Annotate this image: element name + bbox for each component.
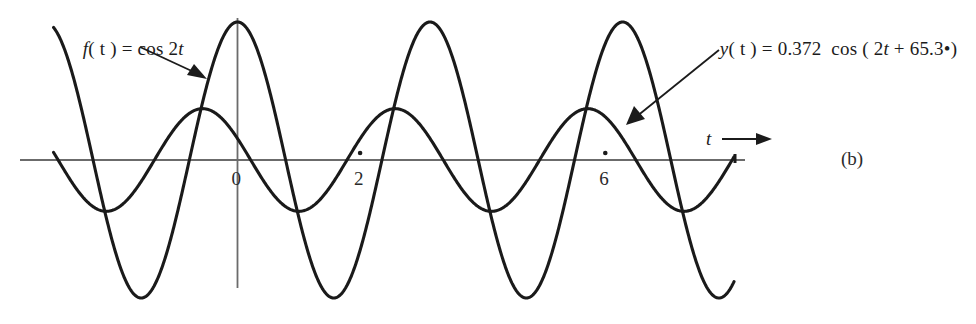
f-function-label: f( t ) = cos 2t [63, 20, 184, 77]
panel-caption: (b) [841, 149, 863, 168]
y-label-close: ) [951, 38, 958, 59]
tick-dot [603, 151, 608, 156]
y-label-tail: + 65.3 [889, 38, 944, 59]
tick-label-6: 6 [599, 169, 609, 188]
f-label-rest: ( t ) = cos 2 [88, 38, 178, 59]
t-axis-label: t [706, 129, 711, 148]
tick-dot [358, 151, 363, 156]
tick-label-2: 2 [354, 169, 364, 188]
degree-symbol-icon: • [944, 38, 951, 59]
figure-panel: f( t ) = cos 2t y( t ) = 0.372 cos ( 2t … [0, 0, 976, 324]
y-function-label: y( t ) = 0.372 cos ( 2t + 65.3•) [700, 20, 957, 77]
y-label-mid: ( t ) = 0.372 cos ( 2 [728, 38, 883, 59]
t-axis-arrow-icon [722, 133, 772, 145]
axis-tick-marks [358, 151, 737, 163]
tick-label-0: 0 [232, 169, 242, 188]
f-label-variable: t [178, 38, 183, 59]
